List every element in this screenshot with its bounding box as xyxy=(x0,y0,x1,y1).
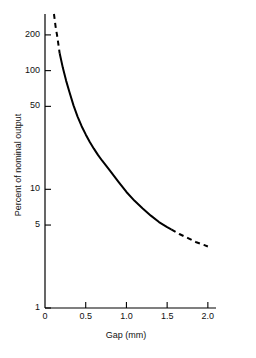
y-tick-label: 1 xyxy=(4,303,40,312)
y-tick-label: 200 xyxy=(4,30,40,39)
series-line-output-vs-gap-extrapolated-low xyxy=(54,14,60,53)
y-axis-label: Percent of nominal output xyxy=(13,95,23,235)
x-axis-label: Gap (mm) xyxy=(45,330,207,340)
chart-figure: Percent of nominal output Gap (mm) 20010… xyxy=(0,0,256,358)
x-tick-label: 0.5 xyxy=(71,312,101,321)
x-tick-label: 1.5 xyxy=(152,312,182,321)
data-series-group xyxy=(54,14,208,246)
y-tick-label: 10 xyxy=(4,184,40,193)
x-tick-label: 2.0 xyxy=(193,312,223,321)
x-axis-ticks xyxy=(86,302,208,308)
x-tick-label: 1.0 xyxy=(111,312,141,321)
x-tick-label: 0 xyxy=(30,312,60,321)
y-axis-ticks xyxy=(45,35,51,308)
y-tick-label: 5 xyxy=(4,220,40,229)
series-line-output-vs-gap xyxy=(60,53,172,229)
y-tick-label: 50 xyxy=(4,101,40,110)
y-tick-label: 100 xyxy=(4,66,40,75)
series-line-output-vs-gap-extrapolated-high xyxy=(171,229,208,246)
